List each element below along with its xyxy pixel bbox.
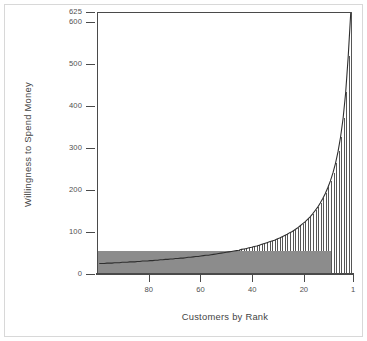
y-axis-tick [86, 106, 95, 107]
x-axis-line [96, 273, 354, 275]
x-axis-tick [149, 275, 150, 282]
x-axis-tick-label: 1 [341, 285, 365, 294]
y-axis-tick-label: 300 [48, 143, 82, 152]
x-axis-tick [200, 275, 201, 282]
y-axis-tick-label: 100 [48, 227, 82, 236]
y-axis-tick [86, 190, 95, 191]
y-axis-tick [86, 22, 95, 23]
x-axis-tick [304, 275, 305, 282]
y-axis-tick [86, 148, 95, 149]
plot-area [97, 12, 353, 274]
y-axis-tick [86, 232, 95, 233]
y-axis-tick-label: 500 [48, 59, 82, 68]
x-axis-title: Customers by Rank [97, 311, 353, 322]
x-axis-tick-label: 40 [240, 285, 264, 294]
x-axis-tick [353, 275, 354, 282]
chart-figure: 0100200300400500600625 806040201 Willing… [0, 0, 367, 341]
envelope-curve [98, 13, 352, 274]
y-axis-tick-label: 0 [48, 269, 82, 278]
y-axis-tick [86, 64, 95, 65]
y-axis-tick-label: 600 [48, 17, 82, 26]
x-axis-tick-label: 60 [188, 285, 212, 294]
y-axis-tick [86, 12, 95, 13]
x-axis-tick [252, 275, 253, 282]
y-axis-tick [86, 274, 95, 275]
y-axis-tick-labels: 0100200300400500600625 [44, 0, 82, 341]
y-axis-tick-label: 200 [48, 185, 82, 194]
x-axis-tick-label: 80 [137, 285, 161, 294]
y-axis-tick-label: 625 [48, 7, 82, 16]
y-axis-title: Willingness to Spend Money [22, 55, 33, 235]
y-axis-tick-label: 400 [48, 101, 82, 110]
x-axis-tick-label: 20 [292, 285, 316, 294]
